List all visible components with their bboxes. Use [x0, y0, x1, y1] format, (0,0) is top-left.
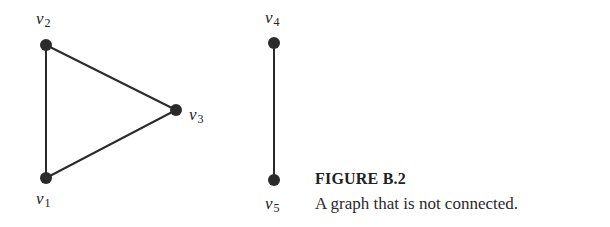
vertex-v1 [40, 172, 52, 184]
vertex-label-name: v [36, 189, 44, 208]
vertex-v4 [268, 37, 280, 49]
vertex-v2 [40, 39, 52, 51]
vertex-label-name: v [36, 9, 44, 28]
vertex-label-name: v [265, 194, 273, 213]
vertex-v5 [268, 174, 280, 186]
vertex-label-sub: 2 [45, 16, 51, 30]
vertex-label-sub: 1 [45, 196, 51, 210]
vertex-label-sub: 3 [198, 112, 204, 126]
graph-figure: v2 v1 v3 v4 v5 FIGURE B.2 A graph that i… [0, 0, 610, 227]
vertex-label-sub: 5 [274, 201, 280, 215]
edge-v2-v3 [46, 45, 176, 110]
vertex-label-name: v [265, 8, 273, 27]
edge-v3-v1 [46, 110, 176, 178]
vertex-label-v3: v3 [189, 106, 204, 125]
figure-caption: A graph that is not connected. [315, 194, 518, 214]
graph-canvas [0, 0, 610, 227]
figure-label: FIGURE B.2 [315, 170, 406, 188]
vertex-label-v2: v2 [36, 10, 51, 29]
vertex-v3 [170, 104, 182, 116]
vertex-label-v1: v1 [36, 190, 51, 209]
vertex-label-sub: 4 [274, 15, 280, 29]
edges [46, 43, 274, 180]
vertex-label-v4: v4 [265, 9, 280, 28]
vertex-label-name: v [189, 105, 197, 124]
vertex-label-v5: v5 [265, 195, 280, 214]
